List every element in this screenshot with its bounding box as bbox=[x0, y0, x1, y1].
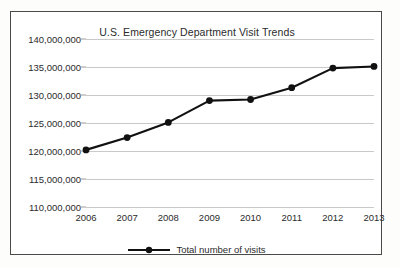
x-axis-tick-label: 2013 bbox=[363, 212, 384, 223]
y-axis-tick-label: 115,000,000 bbox=[29, 174, 81, 185]
x-axis-tick-label: 2011 bbox=[281, 212, 301, 223]
y-axis-tick-label: 110,000,000 bbox=[29, 202, 81, 213]
x-axis-tick-label: 2010 bbox=[240, 212, 261, 223]
legend-label-total-visits: Total number of visits bbox=[176, 244, 265, 255]
chart-figure: U.S. Emergency Department Visit Trends 1… bbox=[0, 0, 400, 268]
x-axis-tick-label: 2012 bbox=[322, 212, 343, 223]
data-series-layer bbox=[86, 39, 374, 207]
data-point-marker bbox=[247, 96, 254, 103]
legend-line-marker-icon bbox=[128, 245, 170, 255]
x-axis-tick-label: 2007 bbox=[117, 212, 138, 223]
series-markers bbox=[83, 63, 378, 153]
x-axis-tick-label: 2009 bbox=[199, 212, 220, 223]
chart-frame: U.S. Emergency Department Visit Trends 1… bbox=[10, 11, 382, 255]
y-axis-tick-label: 140,000,000 bbox=[28, 34, 81, 45]
chart-legend: Total number of visits bbox=[11, 244, 383, 255]
gridline bbox=[86, 207, 374, 208]
y-axis-tick-label: 125,000,000 bbox=[28, 118, 81, 129]
plot-area: 140,000,000135,000,000130,000,000125,000… bbox=[86, 39, 374, 207]
data-point-marker bbox=[371, 63, 378, 70]
data-point-marker bbox=[329, 65, 336, 72]
y-axis-tick-label: 130,000,000 bbox=[28, 90, 81, 101]
x-axis-tick-label: 2008 bbox=[158, 212, 179, 223]
data-point-marker bbox=[124, 134, 131, 141]
data-point-marker bbox=[83, 146, 90, 153]
x-axis-tick-label: 2006 bbox=[75, 212, 96, 223]
y-axis-tick-label: 120,000,000 bbox=[28, 146, 81, 157]
data-point-marker bbox=[206, 97, 213, 104]
data-point-marker bbox=[165, 119, 172, 126]
y-axis-tick-label: 135,000,000 bbox=[28, 62, 81, 73]
data-point-marker bbox=[288, 84, 295, 91]
